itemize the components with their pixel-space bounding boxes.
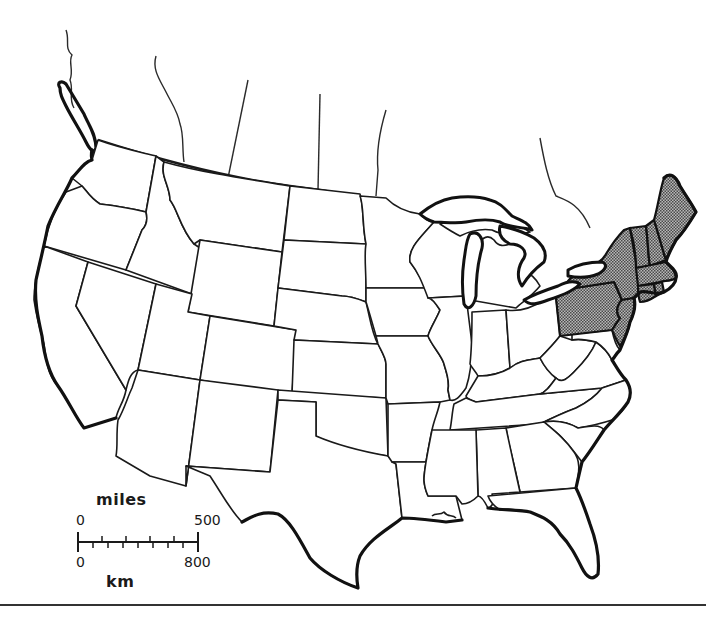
scale-km-end: 800 [184,554,211,570]
scale-miles-label: miles [96,490,147,509]
scale-km-label: km [106,572,134,591]
scale-km-start: 0 [76,554,85,570]
state-north-dakota [284,186,366,244]
state-wyoming [188,240,282,326]
scale-miles-start: 0 [76,512,85,528]
vancouver-island [59,82,96,168]
state-indiana [470,310,510,376]
state-mississippi [424,430,478,504]
state-kansas [292,340,386,398]
scale-bar: miles 0 500 0 800 km [76,490,236,590]
horizontal-rule [0,604,706,606]
scale-ruler [76,530,236,554]
scale-miles-end: 500 [194,512,221,528]
